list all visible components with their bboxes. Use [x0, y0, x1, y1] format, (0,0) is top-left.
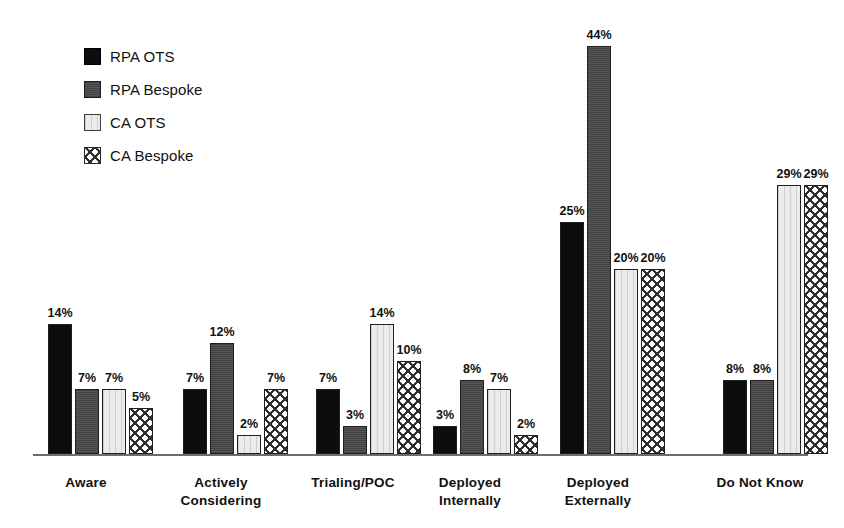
bar-value-label: 7%: [186, 372, 204, 385]
bar-rect: [183, 389, 207, 454]
bar-rect: [487, 389, 511, 454]
bar-rect: [397, 361, 421, 454]
bar-value-label: 7%: [105, 372, 123, 385]
bar-rect: [804, 185, 828, 454]
bar-value-label: 10%: [396, 344, 421, 357]
bar-group: 14%7%7%5%: [48, 34, 156, 454]
category-label-line: Considering: [141, 492, 301, 510]
plot-area: 14%7%7%5%7%12%2%7%7%3%14%10%3%8%7%2%25%4…: [33, 20, 808, 456]
bar-group: 7%3%14%10%: [316, 34, 424, 454]
bar-rect: [750, 380, 774, 454]
bar-rect: [777, 185, 801, 454]
bar-value-label: 7%: [78, 372, 96, 385]
bar-rect: [614, 269, 638, 454]
bar-value-label: 8%: [753, 363, 771, 376]
bar-rect: [560, 222, 584, 454]
bar-value-label: 7%: [267, 372, 285, 385]
bar-rect: [460, 380, 484, 454]
category-label-line: Do Not Know: [680, 474, 840, 492]
bar-value-label: 7%: [319, 372, 337, 385]
category-label-line: Deployed: [518, 474, 678, 492]
bar-value-label: 2%: [240, 418, 258, 431]
bar-value-label: 12%: [209, 326, 234, 339]
bar-value-label: 14%: [369, 307, 394, 320]
bar-rect: [102, 389, 126, 454]
bar-value-label: 8%: [463, 363, 481, 376]
bar-value-label: 29%: [803, 168, 828, 181]
x-axis-line: [33, 454, 808, 456]
bar-group: 25%44%20%20%: [560, 34, 668, 454]
bar-rect: [433, 426, 457, 454]
category-label-5: Do Not Know: [680, 474, 840, 492]
bar-rect: [370, 324, 394, 454]
bar-rect: [237, 435, 261, 454]
bar-rect: [343, 426, 367, 454]
bar-rect: [210, 343, 234, 454]
bar-rect: [316, 389, 340, 454]
bar-value-label: 25%: [559, 205, 584, 218]
bar-value-label: 44%: [586, 29, 611, 42]
bar-rect: [641, 269, 665, 454]
category-label-4: DeployedExternally: [518, 474, 678, 510]
bar-value-label: 2%: [517, 418, 535, 431]
bar-rect: [129, 408, 153, 454]
bar-group: 7%12%2%7%: [183, 34, 291, 454]
bar-rect: [75, 389, 99, 454]
bar-value-label: 3%: [436, 409, 454, 422]
bar-group: 8%8%29%29%: [723, 34, 831, 454]
bar-value-label: 3%: [346, 409, 364, 422]
bar-rect: [723, 380, 747, 454]
bar-value-label: 8%: [726, 363, 744, 376]
bar-value-label: 14%: [47, 307, 72, 320]
bar-rect: [514, 435, 538, 454]
bar-rect: [264, 389, 288, 454]
category-label-line: Externally: [518, 492, 678, 510]
bar-group: 3%8%7%2%: [433, 34, 541, 454]
bar-rect: [587, 46, 611, 454]
bar-value-label: 7%: [490, 372, 508, 385]
bar-value-label: 20%: [640, 252, 665, 265]
bar-rect: [48, 324, 72, 454]
bar-value-label: 5%: [132, 391, 150, 404]
bar-chart: RPA OTS RPA Bespoke CA OTS CA Bespoke 14…: [0, 0, 844, 528]
bar-value-label: 29%: [776, 168, 801, 181]
bar-value-label: 20%: [613, 252, 638, 265]
